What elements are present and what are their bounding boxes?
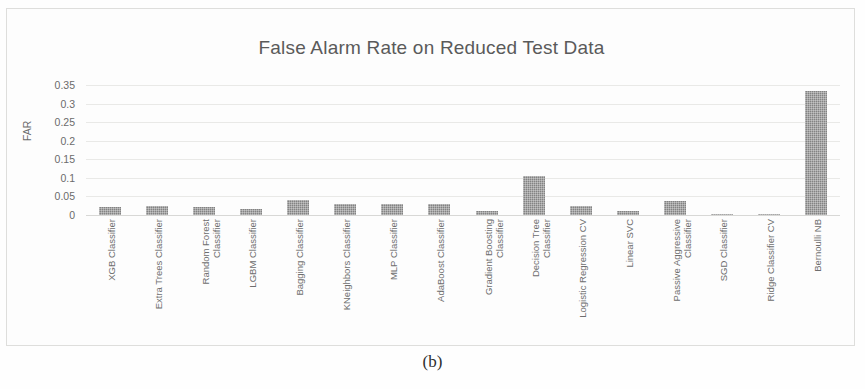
- chart-frame: False Alarm Rate on Reduced Test Data FA…: [6, 8, 855, 346]
- bar: [664, 201, 686, 215]
- x-axis-tick-label-line: KNeighbors Classifier: [341, 219, 352, 339]
- x-axis-tick-label: Logistic Regression CV: [577, 219, 588, 339]
- bar-slot: [699, 85, 746, 215]
- x-axis-tick-label-line: MLP Classifier: [388, 219, 399, 339]
- bar: [476, 211, 498, 215]
- bar-slot: [604, 85, 651, 215]
- bar-slot: [322, 85, 369, 215]
- x-axis-tick-label-line: Extra Trees Classifier: [153, 219, 164, 339]
- bar: [523, 176, 545, 215]
- x-axis-tick-label-line: Decision Tree: [530, 219, 541, 339]
- bar-slot: [227, 85, 274, 215]
- x-axis-tick-label: AdaBoost Classifier: [435, 219, 446, 339]
- x-axis-tick-label-line: AdaBoost Classifier: [435, 219, 446, 339]
- x-axis-tick-label: MLP Classifier: [388, 219, 399, 339]
- x-axis-tick-label: Linear SVC: [624, 219, 635, 339]
- bar-slot: [652, 85, 699, 215]
- bar: [287, 200, 309, 215]
- bar-slot: [510, 85, 557, 215]
- bar-slot: [746, 85, 793, 215]
- bar: [381, 204, 403, 215]
- x-axis-tick-label-line: XGB Classifier: [106, 219, 117, 339]
- x-axis-tick-label-line: SGD Classifier: [718, 219, 729, 339]
- bar: [711, 214, 733, 215]
- y-axis-tick-label: 0.35: [55, 79, 75, 91]
- bar: [99, 207, 121, 215]
- bar-slot: [275, 85, 322, 215]
- bar-slot: [416, 85, 463, 215]
- y-axis-tick-label: 0.15: [55, 153, 75, 165]
- x-axis-tick-label-line: Ridge Classifier CV: [765, 219, 776, 339]
- y-axis-tick-label: 0.05: [55, 190, 75, 202]
- bar-slot: [369, 85, 416, 215]
- bar: [240, 209, 262, 215]
- figure-caption: (b): [0, 352, 865, 372]
- x-axis-tick-label: Decision TreeClassifier: [530, 219, 552, 339]
- chart-title: False Alarm Rate on Reduced Test Data: [7, 37, 856, 59]
- bar: [334, 204, 356, 215]
- figure-page: False Alarm Rate on Reduced Test Data FA…: [0, 0, 865, 389]
- x-axis-tick-label: XGB Classifier: [106, 219, 117, 339]
- bar-slot: [133, 85, 180, 215]
- y-axis-tick-label: 0.1: [60, 172, 75, 184]
- y-axis-tick-label: 0.2: [60, 135, 75, 147]
- bar-series: [86, 85, 840, 215]
- x-axis-tick-label: SGD Classifier: [718, 219, 729, 339]
- bar: [570, 206, 592, 215]
- x-axis-tick-label-line: Bernoulli NB: [812, 219, 823, 339]
- x-axis-tick-label: Ridge Classifier CV: [765, 219, 776, 339]
- bar-slot: [180, 85, 227, 215]
- x-axis-tick-label: Bagging Classifier: [294, 219, 305, 339]
- bar: [758, 214, 780, 215]
- bar-slot: [793, 85, 840, 215]
- x-axis-tick-label-line: Random Forest: [200, 219, 211, 339]
- y-axis-tick-labels: 0.350.30.250.20.150.10.050: [7, 85, 81, 215]
- x-axis-tick-label-line: Classifier: [541, 219, 552, 339]
- x-axis-tick-label: Gradient BoostingClassifier: [483, 219, 505, 339]
- x-axis-tick-label: Extra Trees Classifier: [153, 219, 164, 339]
- x-axis-tick-label-line: Passive Aggressive: [671, 219, 682, 339]
- x-axis-tick-label-line: LGBM Classifier: [247, 219, 258, 339]
- x-axis-tick-label: LGBM Classifier: [247, 219, 258, 339]
- y-axis-tick-label: 0.3: [60, 98, 75, 110]
- gridline: [86, 215, 840, 216]
- x-axis-tick-label: Bernoulli NB: [812, 219, 823, 339]
- bar-slot: [557, 85, 604, 215]
- x-axis-tick-labels: XGB ClassifierExtra Trees ClassifierRand…: [86, 217, 840, 339]
- bar: [193, 207, 215, 215]
- x-axis-tick-label: KNeighbors Classifier: [341, 219, 352, 339]
- x-axis-tick-label-line: Classifier: [682, 219, 693, 339]
- x-axis-tick-label-line: Classifier: [494, 219, 505, 339]
- bar: [428, 204, 450, 215]
- bar: [146, 206, 168, 215]
- plot-area: [86, 85, 840, 215]
- x-axis-tick-label: Passive AggressiveClassifier: [671, 219, 693, 339]
- x-axis-tick-label-line: Classifier: [211, 219, 222, 339]
- y-axis-tick-label: 0: [69, 209, 75, 221]
- bar-slot: [463, 85, 510, 215]
- x-axis-tick-label-line: Gradient Boosting: [483, 219, 494, 339]
- x-axis-tick-label-line: Bagging Classifier: [294, 219, 305, 339]
- y-axis-tick-label: 0.25: [55, 116, 75, 128]
- x-axis-tick-label-line: Logistic Regression CV: [577, 219, 588, 339]
- bar: [805, 91, 827, 215]
- x-axis-tick-label-line: Linear SVC: [624, 219, 635, 339]
- bar-slot: [86, 85, 133, 215]
- bar: [617, 211, 639, 215]
- x-axis-tick-label: Random ForestClassifier: [200, 219, 222, 339]
